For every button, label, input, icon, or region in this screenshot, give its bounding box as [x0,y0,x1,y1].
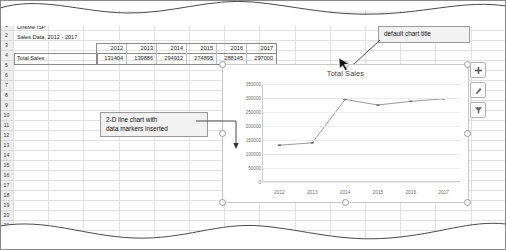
y-tick-350000: 350000 [227,82,261,87]
x-tick-2014: 2014 [332,190,358,195]
x-tick-2017: 2017 [431,190,457,195]
column-header-c[interactable]: C [83,11,119,20]
cell-year-2015[interactable]: 2015 [187,43,213,53]
cell-a1-title[interactable]: LinkMe ISP [17,22,137,32]
y-tick-300000: 300000 [227,96,261,101]
column-header-e[interactable]: E [154,11,190,20]
callout-leader-line-charttype [196,118,246,152]
funnel-icon [474,106,483,115]
cell-a2-subtitle[interactable]: Sales Data, 2012 - 2017 [17,32,157,42]
chart-gridline [263,154,460,155]
chart-gridline [263,140,460,141]
callout-chart-type: 2-D line chart with data markers inserte… [100,112,208,137]
column-header-a[interactable]: A [13,11,49,20]
chart-handle-br[interactable] [464,199,471,206]
chart-styles-button[interactable] [470,82,486,98]
chart-handle-mr[interactable] [464,130,471,137]
chart-gridline [263,182,460,183]
column-header-n[interactable]: N [471,11,506,20]
gridline-horizontal [13,210,506,211]
cell-total-sales-label[interactable]: Total Sales [17,53,87,63]
data-marker-2015[interactable] [376,104,380,106]
chart-elements-button[interactable] [470,62,486,78]
cell-year-2017[interactable]: 2017 [247,43,273,53]
gridline-horizontal [13,20,506,21]
column-header-d[interactable]: D [119,11,155,20]
x-tick-2012: 2012 [266,190,292,195]
callout-leader-line-title [352,38,382,66]
callout-chart-type-line1: 2-D line chart with [106,116,202,125]
cell-year-2014[interactable]: 2014 [157,43,183,53]
chart-gridline [263,126,460,127]
cell-year-2016[interactable]: 2016 [217,43,243,53]
chart-quick-buttons[interactable] [470,62,486,122]
cell-value-2017[interactable]: 297000 [247,53,273,63]
chart-gridline [263,168,460,169]
y-tick-250000: 250000 [227,110,261,115]
column-header-f[interactable]: F [189,11,225,20]
callout-chart-type-line2: data markers inserted [106,125,202,134]
chart-handle-bl[interactable] [219,199,226,206]
chart-handle-tl[interactable] [219,61,226,68]
column-header-g[interactable]: G [224,11,260,20]
cell-value-2012[interactable]: 131404 [97,53,123,63]
column-header-m[interactable]: M [435,11,471,20]
column-header-j[interactable]: J [330,11,366,20]
gridline-horizontal [13,220,506,221]
column-header-i[interactable]: I [295,11,331,20]
column-header-k[interactable]: K [365,11,401,20]
y-tick-100000: 100000 [227,152,261,157]
data-marker-2012[interactable] [278,144,282,146]
cell-value-2013[interactable]: 139886 [127,53,153,63]
cell-value-2014[interactable]: 294912 [157,53,183,63]
chart-object[interactable]: Total Sales 0500001000001500002000002500… [222,64,469,203]
chart-gridline [263,84,460,85]
column-header-b[interactable]: B [48,11,84,20]
chart-gridline [263,98,460,99]
series-line[interactable] [279,99,443,145]
cell-value-2015[interactable]: 274895 [187,53,213,63]
x-tick-2013: 2013 [299,190,325,195]
chart-gridline [263,112,460,113]
gridline-horizontal [13,240,506,241]
data-marker-2016[interactable] [409,100,413,102]
plot-area[interactable] [263,84,460,182]
chart-handle-bc[interactable] [342,199,349,206]
y-tick-0: 0 [227,180,261,185]
brush-icon [474,86,483,95]
plus-icon [474,66,483,75]
column-header-l[interactable]: L [400,11,436,20]
cell-year-2012[interactable]: 2012 [97,43,123,53]
row-header-22[interactable]: 22 [0,230,13,241]
callout-default-chart-title-text: default chart title [384,30,431,37]
gridline-vertical [471,20,472,250]
callout-default-chart-title: default chart title [378,26,470,43]
spreadsheet-screenshot: ABCDEFGHIJKLMN 1234567891011121314151617… [0,0,506,250]
cell-year-2013[interactable]: 2013 [127,43,153,53]
x-tick-2016: 2016 [398,190,424,195]
row-header-bar[interactable]: 12345678910111213141516171819202122 [0,20,14,250]
data-marker-2013[interactable] [310,142,314,144]
mouse-pointer-icon [338,58,352,71]
x-tick-2015: 2015 [365,190,391,195]
gridline-horizontal [13,230,506,231]
chart-filters-button[interactable] [470,102,486,118]
y-tick-50000: 50000 [227,166,261,171]
column-header-h[interactable]: H [259,11,295,20]
